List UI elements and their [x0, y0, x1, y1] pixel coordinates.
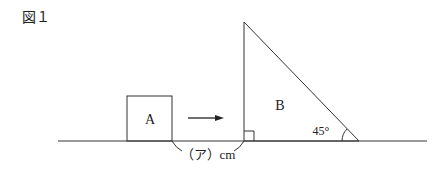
figure-label: 図１ — [22, 10, 50, 25]
right-angle-marker — [244, 131, 254, 141]
gap-label: （ア）cm — [181, 147, 236, 162]
arrow-right-icon — [188, 115, 224, 121]
triangle-b — [244, 22, 359, 141]
gap-bracket-right — [234, 141, 244, 151]
figure-diagram: 図１ A B 45° （ア）cm — [0, 0, 447, 173]
angle-arc — [342, 129, 347, 141]
triangle-b-label: B — [275, 98, 284, 113]
square-a-label: A — [145, 112, 156, 127]
angle-label: 45° — [313, 124, 330, 138]
